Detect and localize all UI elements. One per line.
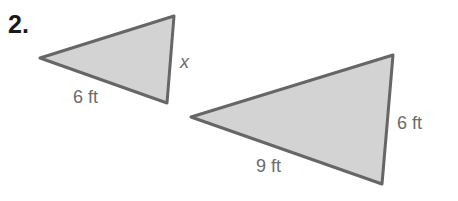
small-triangle	[40, 16, 174, 103]
similar-triangles-diagram: 6 ft x 9 ft 6 ft	[0, 0, 458, 201]
large-triangle-bottom-label: 9 ft	[256, 156, 281, 176]
large-triangle	[191, 55, 393, 184]
small-triangle-right-label: x	[179, 52, 190, 72]
small-triangle-bottom-label: 6 ft	[73, 87, 98, 107]
large-triangle-right-label: 6 ft	[397, 113, 422, 133]
